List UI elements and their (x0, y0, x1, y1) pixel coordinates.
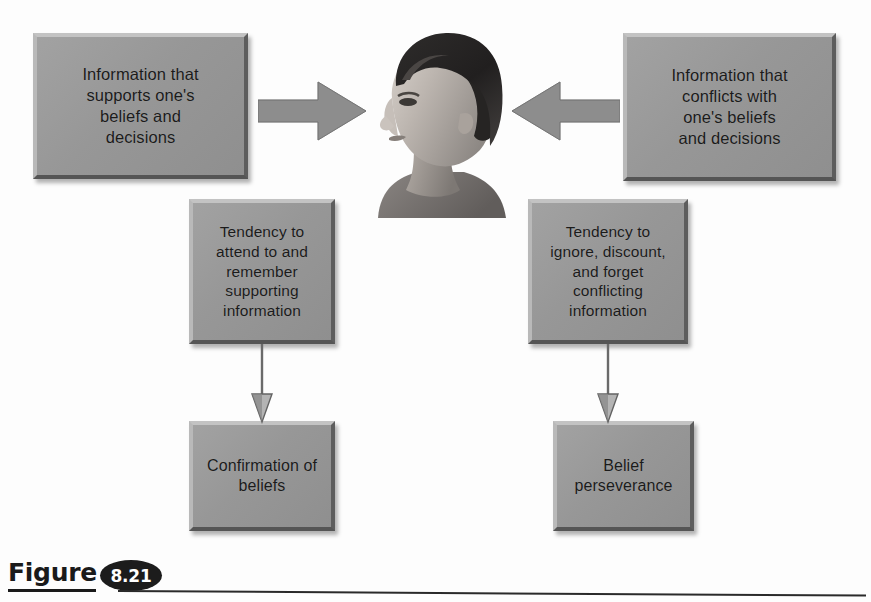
arrow-conflict-to-head-icon (508, 76, 620, 146)
person-head-image (356, 22, 526, 218)
figure-caption-rule (118, 590, 866, 597)
box-conflict-info-label: Information that conflicts with one's be… (665, 65, 793, 149)
box-support-info-label: Information that supports one's beliefs … (76, 64, 204, 148)
box-support-info: Information that supports one's beliefs … (33, 33, 248, 179)
figure-number-text: 8.21 (110, 566, 151, 586)
box-tendency-attend-label: Tendency to attend to and remember suppo… (210, 222, 314, 321)
box-belief-perseverance: Belief perseverance (553, 421, 694, 531)
arrow-attend-to-confirmation-icon (244, 344, 280, 424)
figure-container: Information that supports one's beliefs … (0, 0, 871, 602)
figure-caption: Figure 8.21 (0, 556, 871, 602)
figure-caption-underline (8, 589, 96, 592)
figure-caption-word: Figure (8, 558, 97, 587)
figure-number-badge: 8.21 (100, 560, 162, 591)
box-conflict-info: Information that conflicts with one's be… (623, 33, 836, 181)
box-tendency-ignore-label: Tendency to ignore, discount, and forget… (544, 222, 671, 321)
box-confirmation-label: Confirmation of beliefs (201, 456, 323, 497)
arrow-support-to-head-icon (258, 76, 368, 146)
box-tendency-ignore: Tendency to ignore, discount, and forget… (528, 199, 688, 344)
box-confirmation-of-beliefs: Confirmation of beliefs (189, 421, 335, 531)
box-tendency-attend: Tendency to attend to and remember suppo… (189, 199, 335, 344)
arrow-ignore-to-perseverance-icon (590, 344, 626, 424)
box-perseverance-label: Belief perseverance (568, 456, 678, 497)
